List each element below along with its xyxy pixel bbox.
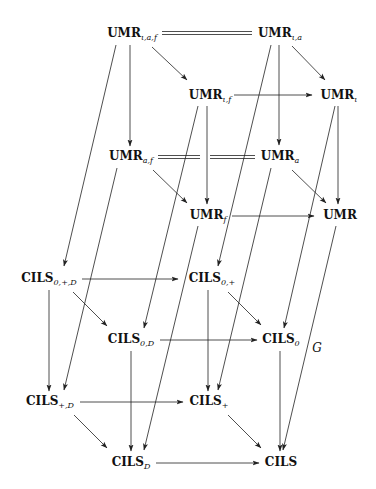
node-umr-iaf: UMRι,a,f [107,27,157,42]
commutative-diagram: UMRι,a,f UMRι,a UMRι,f UMRι UMRa,f UMRa … [0,0,376,489]
node-cils: CILS [265,456,297,471]
node-umr-a: UMRa [261,150,300,165]
node-cils-D: CILSD [112,456,151,471]
node-cils-p: CILS+ [190,395,229,410]
arrow-umr-af-to-umr-f [153,170,187,203]
arrow-cils-p-to-cils [228,415,261,448]
arrow-umr-iaf-to-umr-if [152,47,187,80]
node-umr-af: UMRa,f [109,150,153,165]
arrow-cils-0p-to-cils-0 [228,292,261,325]
arrow-cils-pD-to-cils-D [74,415,107,448]
edge-label-g: G [312,341,322,355]
node-umr-if: UMRι,f [189,89,231,104]
node-umr-f: UMRf [190,209,227,224]
node-cils-0: CILS0 [262,333,299,348]
equality-umr-af-umr-a [158,156,255,159]
node-cils-pD: CILS+,D [26,395,74,410]
arrow-cils-0pD-to-cils-0D [73,292,107,326]
diagram-edges [0,0,376,489]
node-umr-i: UMRι [321,89,358,104]
equality-umr-iaf-umr-ia [162,32,252,35]
node-cils-0p: CILS0,+ [189,272,236,287]
node-umr-ia: UMRι,a [258,27,302,42]
node-cils-0pD: CILS0,+,D [21,272,77,287]
arrow-umr-ia-to-umr-i [292,46,325,80]
node-umr: UMR [323,209,357,224]
arrow-umr-a-to-umr [292,170,326,203]
node-cils-0D: CILS0,D [108,333,154,348]
